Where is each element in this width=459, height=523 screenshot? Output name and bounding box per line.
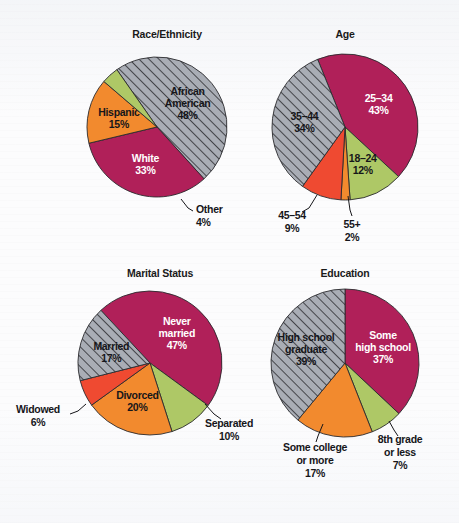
pie-group-age: 25–3443%18–2412%35–4434% (272, 54, 418, 200)
slice-label-outside: 45–549% (278, 209, 306, 234)
slice-callout-8th-grade-or-less: 8th gradeor less7% (378, 421, 423, 471)
slice-callout-other: Other4% (181, 199, 223, 228)
slice-label-inside: White33% (132, 152, 160, 176)
slice-callout-widowed: Widowed6% (16, 403, 86, 428)
slice-label-outside: 55+2% (344, 218, 361, 243)
slice-label-outside: 8th gradeor less7% (378, 433, 423, 471)
slice-label-outside: Separated10% (205, 417, 253, 442)
slice-callout-separated: Separated10% (205, 404, 253, 442)
figure-page: Race/Ethnicity Age Marital Status Educat… (0, 0, 459, 523)
leader-line (70, 404, 86, 414)
pie-group-race-ethnicity: AfricanAmerican48%White33%Hispanic15% (87, 57, 227, 197)
slice-callout-55-: 55+2% (344, 196, 361, 243)
pie-group-education: Somehigh school37%High schoolgraduate39% (271, 289, 419, 437)
slice-label-outside: Other4% (196, 203, 223, 228)
slice-label-outside: Some collegeor more17% (283, 441, 348, 479)
slice-callout-45-54: 45–549% (278, 195, 317, 234)
pie-charts-canvas: AfricanAmerican48%White33%Hispanic15%25–… (0, 0, 459, 523)
slice-label-outside: Widowed6% (16, 403, 60, 428)
leader-line (181, 199, 193, 211)
pie-group-marital-status: Nevermarried47%Divorced20%Married17% (78, 291, 222, 435)
